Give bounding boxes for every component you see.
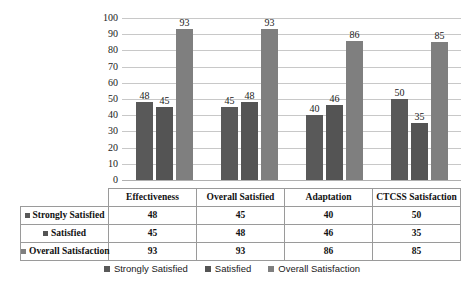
y-axis-tick-80: 80: [108, 45, 118, 55]
table-row-label: Strongly Satisfied: [33, 210, 105, 220]
legend-item-strongly-satisfied[interactable]: Strongly Satisfied: [104, 264, 188, 274]
series-swatch-icon: [21, 249, 26, 254]
grouped-bar-chart-with-data-table: 1009080706050403020100 48459345489340468…: [0, 0, 464, 286]
bar-data-label: 40: [310, 103, 320, 114]
y-axis-tick-0: 0: [113, 175, 118, 185]
bar-satisfied-adaptation[interactable]: 46: [326, 105, 343, 180]
legend-item-overall-satisfaction[interactable]: Overall Satisfaction: [268, 264, 360, 274]
plot-area: 484593454893404686503585: [122, 18, 461, 180]
legend-label: Satisfied: [215, 264, 251, 274]
bar-data-label: 46: [330, 93, 340, 104]
bar-slot: 45: [156, 18, 173, 180]
bar-strongly-satisfied-overall-satisfied[interactable]: 45: [221, 107, 238, 180]
y-axis-tick-90: 90: [108, 29, 118, 39]
bar-data-label: 93: [265, 17, 275, 28]
bar-overall-satisfaction-effectiveness[interactable]: 93: [176, 29, 193, 180]
bar-data-label: 50: [395, 87, 405, 98]
legend-swatch-icon: [104, 266, 110, 272]
table-column-header-effectiveness: Effectiveness: [109, 189, 197, 207]
table-corner-cell: [21, 189, 109, 207]
table-cell: 40: [285, 207, 373, 225]
bar-overall-satisfaction-ctcss-satisfaction[interactable]: 85: [431, 42, 448, 180]
bar-slot: 48: [241, 18, 258, 180]
table-column-header-overall-satisfied: Overall Satisfied: [197, 189, 285, 207]
y-axis-tick-20: 20: [108, 143, 118, 153]
table-row-header-overall-satisfaction: Overall Satisfaction: [21, 243, 109, 261]
bar-group-adaptation: 404686: [292, 18, 377, 180]
series-swatch-icon: [43, 231, 48, 236]
table-row: Strongly Satisfied48454050: [21, 207, 461, 225]
bar-satisfied-ctcss-satisfaction[interactable]: 35: [411, 123, 428, 180]
table-cell: 85: [373, 243, 461, 261]
bar-group-overall-satisfied: 454893: [207, 18, 292, 180]
bar-data-label: 48: [140, 90, 150, 101]
y-axis-tick-50: 50: [108, 94, 118, 104]
legend-swatch-icon: [268, 266, 274, 272]
bar-slot: 86: [346, 18, 363, 180]
bar-slot: 45: [221, 18, 238, 180]
bar-slot: 93: [176, 18, 193, 180]
bar-slot: 48: [136, 18, 153, 180]
bar-slot: 50: [391, 18, 408, 180]
y-axis-tick-70: 70: [108, 62, 118, 72]
bar-data-label: 86: [350, 29, 360, 40]
table-body: Strongly Satisfied48454050Satisfied45484…: [21, 207, 461, 261]
table-cell: 35: [373, 225, 461, 243]
legend-swatch-icon: [205, 266, 211, 272]
table-cell: 45: [109, 225, 197, 243]
table-row: Satisfied45484635: [21, 225, 461, 243]
series-swatch-icon: [25, 213, 30, 218]
y-axis-tick-100: 100: [103, 13, 118, 23]
bar-group-effectiveness: 484593: [122, 18, 207, 180]
table-cell: 46: [285, 225, 373, 243]
table-head: EffectivenessOverall SatisfiedAdaptation…: [21, 189, 461, 207]
bar-group-ctcss-satisfaction: 503585: [377, 18, 462, 180]
table-cell: 93: [109, 243, 197, 261]
bar-data-label: 48: [245, 90, 255, 101]
table-cell: 45: [197, 207, 285, 225]
table-cell: 48: [109, 207, 197, 225]
bar-overall-satisfaction-adaptation[interactable]: 86: [346, 41, 363, 180]
chart-legend: Strongly SatisfiedSatisfiedOverall Satis…: [0, 264, 464, 274]
bar-data-label: 35: [415, 111, 425, 122]
legend-label: Overall Satisfaction: [278, 264, 360, 274]
bar-slot: 40: [306, 18, 323, 180]
table-row-header-satisfied: Satisfied: [21, 225, 109, 243]
bar-strongly-satisfied-adaptation[interactable]: 40: [306, 115, 323, 180]
table-row-label: Satisfied: [51, 228, 86, 238]
table-column-header-ctcss-satisfaction: CTCSS Satisfaction: [373, 189, 461, 207]
bar-overall-satisfaction-overall-satisfied[interactable]: 93: [261, 29, 278, 180]
bar-slot: 85: [431, 18, 448, 180]
bar-data-label: 93: [180, 17, 190, 28]
table-row-header-strongly-satisfied: Strongly Satisfied: [21, 207, 109, 225]
table-cell: 86: [285, 243, 373, 261]
table-cell: 48: [197, 225, 285, 243]
bar-strongly-satisfied-effectiveness[interactable]: 48: [136, 102, 153, 180]
table-cell: 50: [373, 207, 461, 225]
y-axis-tick-30: 30: [108, 126, 118, 136]
y-axis-tick-labels: 1009080706050403020100: [92, 18, 118, 180]
plot-wrapper: 1009080706050403020100 48459345489340468…: [0, 6, 464, 188]
y-axis-tick-10: 10: [108, 159, 118, 169]
bar-data-label: 45: [225, 95, 235, 106]
bar-slot: 35: [411, 18, 428, 180]
axis-baseline: [122, 180, 461, 181]
table-header-row: EffectivenessOverall SatisfiedAdaptation…: [21, 189, 461, 207]
bar-data-label: 45: [160, 95, 170, 106]
bar-data-label: 85: [435, 30, 445, 41]
bar-groups: 484593454893404686503585: [122, 18, 461, 180]
legend-item-satisfied[interactable]: Satisfied: [205, 264, 251, 274]
data-table: EffectivenessOverall SatisfiedAdaptation…: [20, 188, 461, 261]
table-row: Overall Satisfaction93938685: [21, 243, 461, 261]
y-axis-tick-40: 40: [108, 110, 118, 120]
bar-slot: 93: [261, 18, 278, 180]
y-axis-tick-60: 60: [108, 78, 118, 88]
legend-label: Strongly Satisfied: [114, 264, 188, 274]
bar-slot: 46: [326, 18, 343, 180]
bar-satisfied-overall-satisfied[interactable]: 48: [241, 102, 258, 180]
table-cell: 93: [197, 243, 285, 261]
table-column-header-adaptation: Adaptation: [285, 189, 373, 207]
bar-strongly-satisfied-ctcss-satisfaction[interactable]: 50: [391, 99, 408, 180]
table-row-label: Overall Satisfaction: [29, 246, 109, 256]
bar-satisfied-effectiveness[interactable]: 45: [156, 107, 173, 180]
